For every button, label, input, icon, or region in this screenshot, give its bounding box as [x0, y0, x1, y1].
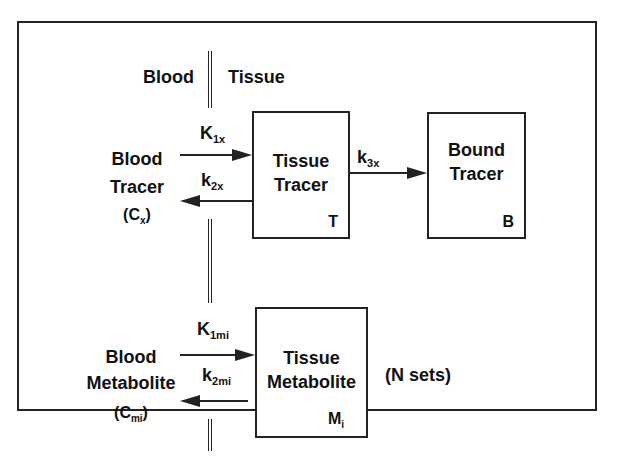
arrow-k3x-icon — [350, 167, 427, 179]
arrow-k2x-icon — [180, 195, 252, 207]
arrow-k1mi-icon — [180, 349, 255, 361]
arrow-k1x-icon — [180, 149, 252, 161]
arrows-layer — [0, 0, 622, 467]
arrow-k2mi-icon — [180, 395, 248, 407]
